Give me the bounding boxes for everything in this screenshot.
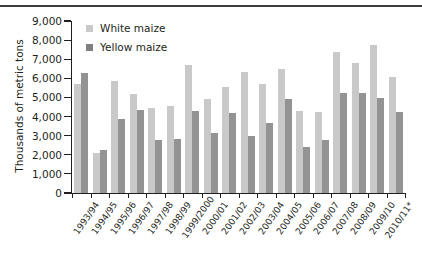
y-axis-tick (64, 59, 71, 60)
bar-yellow-maize (137, 110, 144, 193)
x-axis-tick (405, 193, 406, 198)
white-maize-swatch-icon (86, 25, 93, 32)
x-axis-tick (146, 193, 147, 198)
bar-white-maize (130, 94, 137, 193)
bar-white-maize (167, 106, 174, 193)
y-axis-tick (64, 78, 71, 79)
bar-group (276, 21, 295, 193)
bar-yellow-maize (118, 119, 125, 193)
y-axis-tick (64, 97, 71, 98)
y-axis-tick-label: 1,000 (2, 169, 62, 180)
x-axis-tick (202, 193, 203, 198)
x-axis-tick (257, 193, 258, 198)
x-axis-tick (294, 193, 295, 198)
x-axis-tick (313, 193, 314, 198)
bar-white-maize (278, 69, 285, 193)
bar-white-maize (111, 81, 118, 193)
legend-item-yellow-maize: Yellow maize (86, 39, 167, 55)
x-axis-tick (368, 193, 369, 198)
y-axis-tick (64, 135, 71, 136)
bar-yellow-maize (303, 147, 310, 193)
bar-group (294, 21, 313, 193)
bar-white-maize (259, 84, 266, 193)
bar-group (350, 21, 369, 193)
y-axis-tick (64, 40, 71, 41)
y-axis-tick-label: 0 (2, 188, 62, 199)
y-axis-tick-label: 5,000 (2, 92, 62, 103)
x-axis-tick (165, 193, 166, 198)
bar-white-maize (185, 65, 192, 193)
bar-white-maize (296, 111, 303, 193)
x-axis-tick (387, 193, 388, 198)
bar-group (202, 21, 221, 193)
bar-group (165, 21, 184, 193)
bar-group (313, 21, 332, 193)
bar-yellow-maize (229, 113, 236, 193)
bar-white-maize (315, 112, 322, 193)
x-axis-tick (128, 193, 129, 198)
bar-yellow-maize (100, 150, 107, 193)
bar-yellow-maize (155, 140, 162, 193)
bar-white-maize (241, 72, 248, 193)
legend-label-yellow-maize: Yellow maize (100, 41, 167, 53)
x-axis-tick (350, 193, 351, 198)
y-axis-tick-label: 7,000 (2, 54, 62, 65)
y-axis-tick-label: 8,000 (2, 35, 62, 46)
bar-yellow-maize (359, 93, 366, 193)
bar-white-maize (148, 108, 155, 193)
y-axis-tick-label: 9,000 (2, 16, 62, 27)
bar-yellow-maize (174, 139, 181, 193)
y-axis-tick (64, 192, 71, 193)
x-axis-tick (331, 193, 332, 198)
bar-group (220, 21, 239, 193)
bar-group (331, 21, 350, 193)
bar-yellow-maize (192, 111, 199, 193)
bar-white-maize (222, 87, 229, 193)
y-axis-tick (64, 154, 71, 155)
bar-white-maize (204, 99, 211, 193)
yellow-maize-swatch-icon (86, 44, 93, 51)
y-axis-tick-label: 6,000 (2, 73, 62, 84)
x-axis-tick (183, 193, 184, 198)
bar-white-maize (74, 84, 81, 193)
bar-yellow-maize (248, 136, 255, 193)
bar-yellow-maize (396, 112, 403, 193)
top-divider-rule (0, 5, 422, 7)
legend-item-white-maize: White maize (86, 20, 167, 36)
chart-figure: Thousands of metric tons 01,0002,0003,00… (0, 0, 422, 276)
bar-yellow-maize (81, 73, 88, 193)
y-axis-tick-label: 2,000 (2, 150, 62, 161)
chart-legend: White maize Yellow maize (86, 20, 167, 58)
bar-white-maize (389, 77, 396, 193)
bar-group (257, 21, 276, 193)
y-axis-tick-labels: 01,0002,0003,0004,0005,0006,0007,0008,00… (0, 0, 62, 276)
bar-group (387, 21, 406, 193)
bar-yellow-maize (322, 140, 329, 194)
x-axis-tick (109, 193, 110, 198)
y-axis-tick-label: 4,000 (2, 111, 62, 122)
bar-group (183, 21, 202, 193)
bar-white-maize (333, 52, 340, 193)
x-axis-tick (220, 193, 221, 198)
bar-yellow-maize (285, 99, 292, 193)
y-axis-tick-label: 3,000 (2, 130, 62, 141)
bar-group (368, 21, 387, 193)
x-axis-tick (239, 193, 240, 198)
y-axis-tick (64, 116, 71, 117)
bar-group (239, 21, 258, 193)
bar-white-maize (352, 63, 359, 193)
bar-white-maize (93, 153, 100, 193)
bar-yellow-maize (377, 98, 384, 193)
bar-white-maize (370, 45, 377, 193)
bar-yellow-maize (211, 133, 218, 193)
x-axis-tick (91, 193, 92, 198)
legend-label-white-maize: White maize (100, 22, 165, 34)
bar-yellow-maize (266, 123, 273, 193)
bar-yellow-maize (340, 93, 347, 193)
x-axis-tick (72, 193, 73, 198)
y-axis-tick (64, 173, 71, 174)
y-axis-tick (64, 20, 71, 21)
x-axis-tick (276, 193, 277, 198)
